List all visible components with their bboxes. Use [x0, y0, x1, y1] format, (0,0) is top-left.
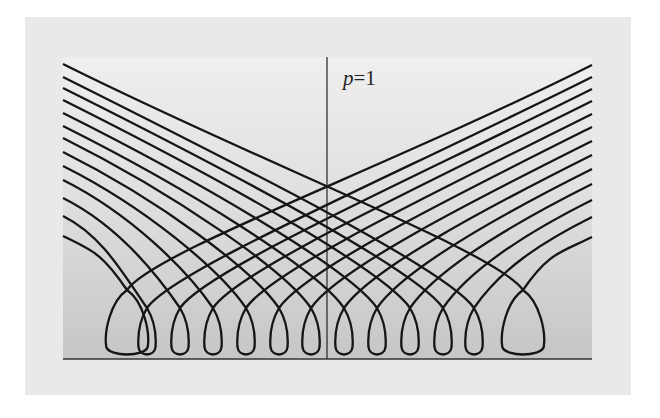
label-equation: =1 — [354, 66, 376, 90]
parameter-label: p=1 — [343, 66, 376, 91]
trajectory-plot — [0, 0, 660, 418]
label-variable: p — [343, 66, 354, 90]
